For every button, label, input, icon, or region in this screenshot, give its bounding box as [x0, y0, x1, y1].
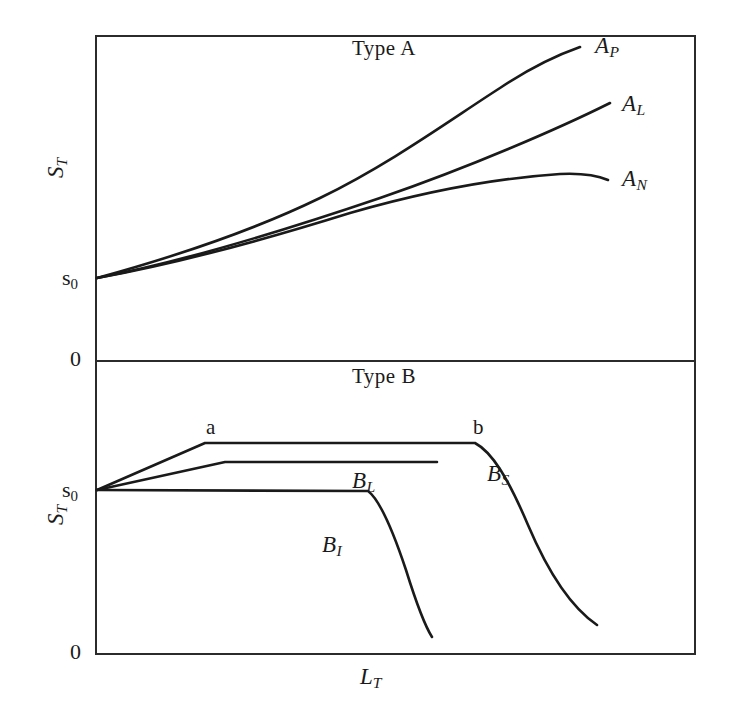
- y-axis-label-bottom-text: S: [43, 514, 68, 526]
- curve-label-a-n-text: A: [622, 166, 636, 191]
- y-tick-s0-bottom-text: s: [62, 477, 71, 502]
- y-axis-label-top: ST: [44, 158, 70, 178]
- curve-label-b-i-sub: I: [336, 542, 342, 559]
- y-axis-label-bottom: ST: [44, 505, 70, 525]
- y-axis-label-top-sub: T: [53, 158, 70, 167]
- y-axis-label-bottom-sub: T: [53, 505, 70, 514]
- y-tick-s0-bottom-sub: 0: [71, 488, 78, 504]
- curve-a-n: [97, 174, 608, 278]
- marker-label-a: a: [206, 417, 215, 438]
- curve-label-b-l-sub: L: [366, 478, 375, 495]
- curve-label-b-l: BL: [352, 469, 375, 495]
- curve-a-p: [97, 47, 580, 278]
- curve-a-l: [97, 103, 610, 278]
- marker-label-b: b: [473, 417, 484, 438]
- y-tick-zero-top: 0: [70, 348, 81, 370]
- curve-b-l: [97, 462, 437, 490]
- curve-label-b-s: BS: [487, 462, 509, 488]
- curve-label-b-s-text: B: [487, 461, 501, 486]
- curve-label-a-n: AN: [622, 167, 647, 193]
- x-axis-label-sub: T: [373, 674, 382, 691]
- y-tick-s0-top: s0: [62, 267, 78, 292]
- curve-label-a-n-sub: N: [636, 176, 647, 193]
- figure-container: Type A ST s0 0 AP AL AN Type B ST s0 0 a…: [0, 0, 729, 717]
- curve-b-s: [97, 443, 597, 625]
- plot-svg: [0, 0, 729, 717]
- curve-label-b-i: BI: [322, 533, 342, 559]
- x-axis-label-text: L: [360, 664, 373, 689]
- panel-title-type-b: Type B: [352, 366, 416, 387]
- x-axis-label: LT: [360, 665, 382, 691]
- y-tick-zero-bottom: 0: [70, 641, 81, 663]
- curve-label-b-i-text: B: [322, 532, 336, 557]
- plot-frame: [96, 36, 695, 654]
- curve-label-a-l-sub: L: [636, 101, 645, 118]
- curve-b-i: [97, 490, 432, 637]
- curve-label-a-p: AP: [595, 34, 619, 60]
- y-tick-s0-top-sub: 0: [71, 276, 78, 292]
- curve-label-a-l: AL: [622, 92, 645, 118]
- curve-label-b-l-text: B: [352, 468, 366, 493]
- curve-label-a-p-sub: P: [609, 43, 619, 60]
- curve-label-a-p-text: A: [595, 33, 609, 58]
- y-tick-s0-bottom: s0: [62, 479, 78, 504]
- panel-title-type-a: Type A: [352, 38, 416, 59]
- y-tick-s0-top-text: s: [62, 265, 71, 290]
- curve-label-b-s-sub: S: [501, 471, 509, 488]
- curve-label-a-l-text: A: [622, 91, 636, 116]
- y-axis-label-top-text: S: [43, 167, 68, 179]
